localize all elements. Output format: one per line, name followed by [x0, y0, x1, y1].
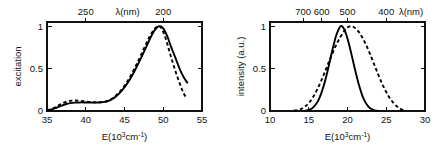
x-tick-label: 10 [265, 114, 276, 125]
top-axis-title: λ(nm) [115, 6, 139, 17]
y-tick-label: 1 [261, 21, 266, 32]
y-axis-title: intensity (a.u.) [235, 37, 246, 97]
top-axis-tick-label: 200 [155, 6, 171, 17]
x-tick-label: 25 [381, 114, 392, 125]
chart-panel-intensity: 101520253000.51700600500400λ(nm)E(103cm-… [223, 0, 446, 150]
x-tick-label: 45 [119, 114, 130, 125]
x-tick-label: 20 [342, 114, 353, 125]
y-tick-label: 1 [38, 21, 43, 32]
y-tick-label: 0.5 [30, 63, 43, 74]
x-tick-label: 15 [303, 114, 314, 125]
top-axis-tick-label: 250 [78, 6, 94, 17]
excitation-plot-svg: 354045505500.51250200λ(nm)E(103cm-1)exci… [0, 0, 223, 150]
x-tick-label: 35 [42, 114, 53, 125]
top-axis-tick-label: 400 [378, 6, 394, 17]
top-axis-tick-label: 500 [340, 6, 356, 17]
chart-panel-excitation: 354045505500.51250200λ(nm)E(103cm-1)exci… [0, 0, 223, 150]
x-axis-title: E(103cm-1) [102, 131, 147, 142]
top-axis-tick-label: 600 [314, 6, 330, 17]
y-axis-title: excitation [12, 46, 23, 86]
x-tick-label: 50 [158, 114, 169, 125]
x-tick-label: 55 [197, 114, 208, 125]
figure-container: 354045505500.51250200λ(nm)E(103cm-1)exci… [0, 0, 446, 150]
top-axis-title: λ(nm) [399, 6, 423, 17]
y-tick-label: 0 [261, 105, 266, 116]
top-axis-tick-label: 700 [295, 6, 311, 17]
x-tick-label: 30 [420, 114, 431, 125]
x-axis-title: E(103cm-1) [325, 131, 370, 142]
intensity-plot-svg: 101520253000.51700600500400λ(nm)E(103cm-… [223, 0, 446, 150]
curve-excitation-dashed [47, 26, 187, 111]
y-tick-label: 0 [38, 105, 43, 116]
x-tick-label: 40 [80, 114, 91, 125]
y-tick-label: 0.5 [253, 63, 266, 74]
curve-emission-solid [306, 26, 378, 111]
curve-emission-dashed [294, 26, 404, 110]
